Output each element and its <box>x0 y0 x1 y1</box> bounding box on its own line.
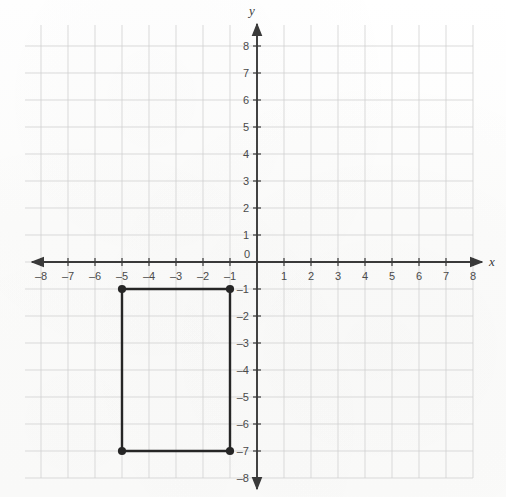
x-tick-label: 6 <box>416 270 422 282</box>
x-tick-label: 2 <box>308 270 314 282</box>
y-tick-label: 7 <box>243 67 249 79</box>
y-tick-label: 5 <box>243 121 249 133</box>
y-tick-label: –3 <box>237 337 249 349</box>
x-tick-label: –3 <box>170 270 182 282</box>
x-tick-label: 4 <box>362 270 368 282</box>
y-tick-label: 1 <box>243 229 249 241</box>
y-tick-label: 4 <box>243 148 249 160</box>
x-tick-label: 1 <box>281 270 287 282</box>
y-tick-label: –8 <box>237 472 249 484</box>
x-tick-label: –5 <box>116 270 128 282</box>
y-tick-label: 6 <box>243 94 249 106</box>
vertex-point <box>226 285 234 293</box>
y-tick-label: –2 <box>237 310 249 322</box>
y-tick-label: –1 <box>237 283 249 295</box>
x-tick-label: 8 <box>470 270 476 282</box>
x-axis-label: x <box>488 254 495 269</box>
y-tick-label: –5 <box>237 391 249 403</box>
origin-label: 0 <box>244 248 250 260</box>
x-tick-label: –4 <box>143 270 155 282</box>
axis-lines <box>32 24 482 489</box>
vertex-point <box>118 285 126 293</box>
y-tick-label: –7 <box>237 445 249 457</box>
x-tick-label: –7 <box>62 270 74 282</box>
y-tick-label: 2 <box>243 202 249 214</box>
y-axis-label: y <box>247 3 255 18</box>
x-tick-label: 7 <box>443 270 449 282</box>
x-tick-label: 5 <box>389 270 395 282</box>
vertex-point <box>226 447 234 455</box>
x-tick-label: 3 <box>335 270 341 282</box>
x-tick-label: –2 <box>197 270 209 282</box>
y-tick-label: 3 <box>243 175 249 187</box>
x-tick-label: –1 <box>224 270 236 282</box>
y-tick-label: –6 <box>237 418 249 430</box>
y-tick-label: 8 <box>243 40 249 52</box>
x-tick-label: –6 <box>89 270 101 282</box>
graph-page: –8–7–6–5–4–3–2–112345678–8–7–6–5–4–3–2–1… <box>0 0 506 497</box>
coordinate-plane: –8–7–6–5–4–3–2–112345678–8–7–6–5–4–3–2–1… <box>0 0 506 497</box>
x-tick-label: –8 <box>35 270 47 282</box>
y-tick-label: –4 <box>237 364 249 376</box>
vertex-point <box>118 447 126 455</box>
